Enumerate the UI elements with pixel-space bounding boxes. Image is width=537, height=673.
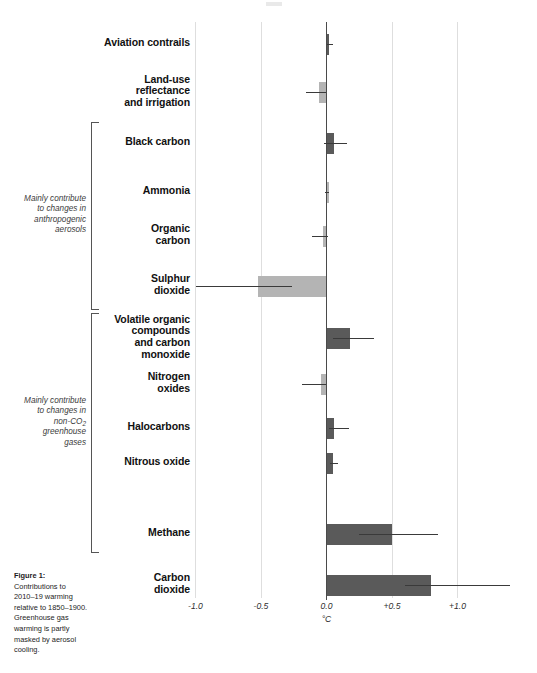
- caption-body: Contributions to 2010–19 warming relativ…: [14, 582, 88, 656]
- x-tick-label--1.0: -1.0: [176, 601, 216, 611]
- error-bar-sulphur-dioxide: [196, 286, 293, 287]
- figure-root: Aviation contrailsLand-usereflectanceand…: [0, 0, 537, 673]
- error-bar-aviation-contrails: [327, 44, 334, 45]
- category-label-aviation-contrails: Aviation contrails: [15, 37, 190, 49]
- category-label-land-use-reflectance-and-irrigation: Land-usereflectanceand irrigation: [15, 74, 190, 109]
- page-top-artifact: [266, 2, 282, 6]
- error-bar-ammonia: [325, 192, 329, 193]
- error-bar-carbon-dioxide: [405, 585, 510, 586]
- category-label-nitrogen-oxides: Nitrogenoxides: [15, 371, 190, 394]
- error-bar-black-carbon: [324, 143, 348, 144]
- category-label-sulphur-dioxide: Sulphurdioxide: [15, 273, 190, 296]
- error-bar-volatile-organic-compounds-and-carbon-monoxide: [333, 338, 374, 339]
- error-bar-halocarbons: [329, 428, 349, 429]
- error-bar-nitrous-oxide: [330, 463, 338, 464]
- category-label-volatile-organic-compounds-and-carbon-monoxide: Volatile organiccompoundsand carbonmonox…: [15, 314, 190, 360]
- gridline--0.5: [261, 22, 262, 598]
- gridline--1.0: [195, 22, 196, 598]
- x-tick-label-+1.0: +1.0: [438, 601, 478, 611]
- category-label-nitrous-oxide: Nitrous oxide: [15, 456, 190, 468]
- x-tick-label--0.5: -0.5: [241, 601, 281, 611]
- zero-axis-line: [326, 22, 327, 600]
- group-bracket-non-co2-ghg: [91, 313, 99, 553]
- group-note-non-co2-ghg: Mainly contributeto changes innon-CO2gre…: [8, 396, 86, 448]
- caption-title: Figure 1:: [14, 571, 88, 582]
- x-tick-label-0.0: 0.0: [307, 601, 347, 611]
- x-axis-unit-label: °C: [307, 614, 347, 624]
- error-bar-nitrogen-oxides: [302, 384, 327, 385]
- category-label-black-carbon: Black carbon: [15, 136, 190, 148]
- error-bar-methane: [359, 534, 438, 535]
- x-tick-label-+0.5: +0.5: [372, 601, 412, 611]
- group-bracket-aerosols: [91, 122, 99, 310]
- figure-caption: Figure 1: Contributions to 2010–19 warmi…: [14, 571, 88, 656]
- category-label-methane: Methane: [15, 527, 190, 539]
- gridline-+1.0: [457, 22, 458, 598]
- error-bar-organic-carbon: [312, 236, 328, 237]
- gridline-+0.5: [392, 22, 393, 598]
- error-bar-land-use-reflectance-and-irrigation: [306, 92, 327, 93]
- group-note-aerosols: Mainly contributeto changes inanthropoge…: [8, 194, 86, 236]
